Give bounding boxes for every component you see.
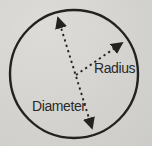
- radius-label: Radius: [94, 60, 136, 76]
- diagram-canvas: Radius Diameter: [0, 0, 152, 146]
- circle-diagram-figure: Radius Diameter: [0, 0, 152, 146]
- diameter-label: Diameter: [32, 98, 86, 114]
